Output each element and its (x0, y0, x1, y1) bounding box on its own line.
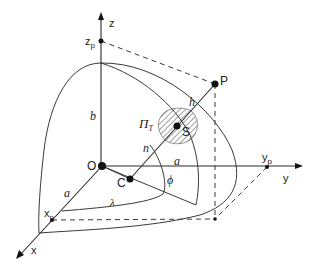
label-n: n (143, 141, 149, 155)
ellipsoid-diagram: z zp b O a xp x C n λ ϕ a ΠT S h P yp y (0, 0, 312, 270)
label-xp: xp (44, 207, 55, 222)
label-y-axis: y (283, 172, 289, 184)
label-yp: yp (262, 151, 273, 166)
dash-yp-to-corner (215, 167, 267, 219)
label-a-x: a (64, 186, 70, 200)
label-x-axis: x (31, 244, 37, 256)
z-axis-arrow-icon (98, 12, 104, 20)
label-h: h (189, 95, 195, 109)
point-O (98, 162, 106, 170)
label-S: S (182, 125, 190, 139)
label-z-axis: z (109, 17, 115, 29)
label-phi: ϕ (167, 173, 173, 187)
label-plane: ΠT (138, 116, 153, 133)
point-C (127, 176, 134, 183)
ellipsoid-outline-right (39, 63, 237, 233)
label-C: C (117, 176, 126, 190)
x-axis (20, 166, 102, 255)
label-b: b (90, 109, 96, 123)
origin-to-center (102, 166, 130, 179)
point-S (174, 123, 181, 130)
label-zp: zp (85, 35, 96, 50)
dash-zp-to-P (101, 41, 215, 84)
label-a-y: a (174, 154, 180, 168)
y-axis-arrow-icon (295, 163, 303, 169)
dash-xp-to-corner (52, 219, 215, 220)
label-origin: O (87, 159, 96, 173)
point-zp (99, 39, 104, 44)
point-P (212, 81, 219, 88)
point-corner (213, 217, 217, 221)
label-P: P (220, 74, 228, 88)
label-lambda: λ (109, 196, 115, 208)
normal-line (130, 84, 215, 179)
